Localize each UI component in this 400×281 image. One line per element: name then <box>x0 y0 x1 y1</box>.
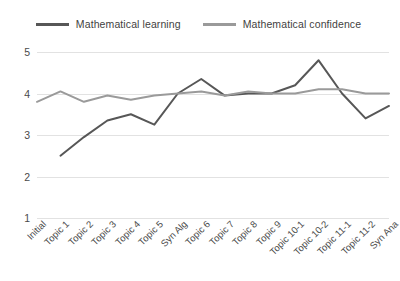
legend-label: Mathematical learning <box>76 18 181 30</box>
legend-swatch-icon <box>36 23 69 26</box>
x-axis-tick-label: Topic 6 <box>184 219 212 247</box>
x-axis-tick-label: Topic 1 <box>43 219 71 247</box>
x-axis-tick-label: Topic 7 <box>207 219 235 247</box>
series-line <box>37 89 389 101</box>
series-line <box>60 60 389 155</box>
x-axis-tick-label: Topic 3 <box>90 219 118 247</box>
plot-area: 12345 <box>37 52 389 218</box>
legend-item-mathematical-learning: Mathematical learning <box>36 18 181 30</box>
y-axis-tick-label: 2 <box>24 171 30 182</box>
y-axis-tick-label: 3 <box>24 130 30 141</box>
y-axis-tick-label: 5 <box>24 47 30 58</box>
chart-legend: Mathematical learning Mathematical confi… <box>0 18 397 30</box>
x-axis-tick-label: Topic 8 <box>231 219 259 247</box>
y-axis-tick-label: 4 <box>24 88 30 99</box>
x-axis-labels: InitialTopic 1Topic 2Topic 3Topic 4Topic… <box>37 219 389 281</box>
legend-item-mathematical-confidence: Mathematical confidence <box>203 18 361 30</box>
x-axis-tick-label: Topic 2 <box>67 219 95 247</box>
legend-label: Mathematical confidence <box>243 18 361 30</box>
legend-swatch-icon <box>203 23 236 26</box>
y-axis-tick-label: 1 <box>24 213 30 224</box>
x-axis-tick-label: Topic 4 <box>114 219 142 247</box>
series-layer <box>37 52 389 218</box>
x-axis-tick-label: Syn Alg <box>159 219 188 248</box>
